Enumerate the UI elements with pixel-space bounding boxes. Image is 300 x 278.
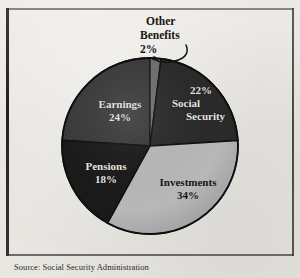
source-note: Source: Social Security Administration bbox=[14, 262, 149, 272]
other-benefits-leader-dot bbox=[152, 56, 156, 60]
figure-page: sources of income for such well-off reti… bbox=[0, 0, 300, 278]
pie-chart-svg bbox=[0, 0, 300, 258]
pie-chart: 22% Social Security Earnings 24% Pension… bbox=[0, 0, 300, 258]
